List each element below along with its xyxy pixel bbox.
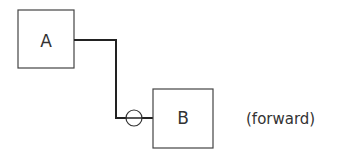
node-a-label: A	[40, 31, 52, 51]
diagram: A B (forward)	[0, 0, 341, 154]
connector-line	[74, 40, 153, 118]
annotation-text: (forward)	[246, 110, 315, 128]
node-b-label: B	[177, 108, 189, 128]
